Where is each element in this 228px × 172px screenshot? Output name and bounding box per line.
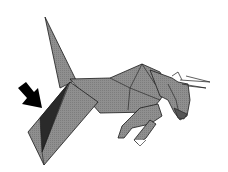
arrow-icon [18, 82, 42, 108]
origami-figure [0, 0, 228, 172]
origami-diagram [0, 0, 228, 172]
upper-wing [45, 17, 76, 88]
